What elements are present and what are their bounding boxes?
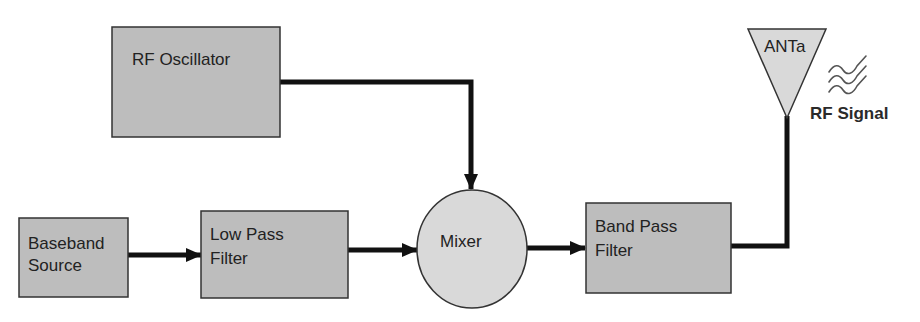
block-label: ANTa	[764, 37, 806, 56]
rf-signal-label: RF Signal	[810, 104, 888, 123]
block-label-line1: Low Pass	[210, 225, 284, 244]
block-baseband-source[interactable]: Baseband Source	[19, 218, 128, 297]
block-label: RF Oscillator	[132, 50, 231, 69]
block-label-line2: Filter	[595, 241, 633, 260]
block-label-line1: Baseband	[28, 234, 105, 253]
block-rf-oscillator[interactable]: RF Oscillator	[112, 27, 280, 137]
block-mixer[interactable]: Mixer	[417, 190, 527, 308]
block-diagram: RF Oscillator Baseband Source Low Pass F…	[0, 0, 920, 322]
block-label-line2: Source	[28, 256, 82, 275]
block-label-line2: Filter	[210, 249, 248, 268]
block-band-pass-filter[interactable]: Band Pass Filter	[586, 203, 731, 293]
radio-waves-icon	[829, 56, 866, 93]
block-low-pass-filter[interactable]: Low Pass Filter	[201, 211, 348, 298]
connector-bpf-to-antenna	[731, 116, 787, 246]
connector-oscillator-to-mixer	[280, 82, 471, 189]
block-label-line1: Band Pass	[595, 217, 677, 236]
block-label: Mixer	[440, 232, 482, 251]
